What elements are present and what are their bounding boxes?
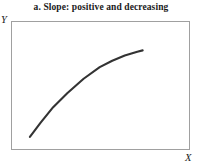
curve-svg — [12, 22, 191, 151]
chart-title: a. Slope: positive and decreasing — [0, 1, 202, 14]
chart-figure: a. Slope: positive and decreasing Y X — [0, 0, 202, 167]
slope-curve — [30, 50, 143, 136]
y-axis-label: Y — [1, 14, 7, 26]
x-axis-label: X — [185, 152, 191, 164]
plot-area — [11, 21, 190, 150]
